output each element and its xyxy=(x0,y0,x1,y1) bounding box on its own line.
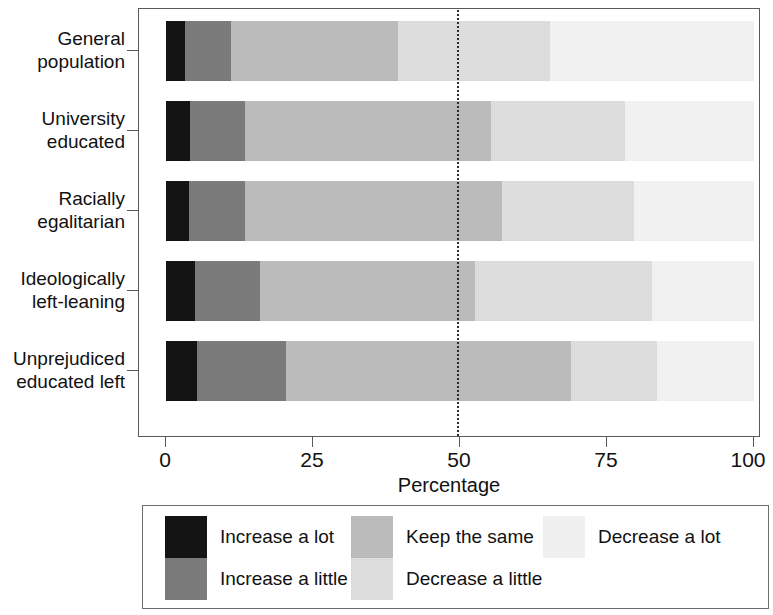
bar-segment-increase-a-little xyxy=(185,21,232,81)
y-axis-label-line2: left-leaning xyxy=(0,290,125,313)
legend-item-decrease-a-little: Decrease a little xyxy=(351,558,542,600)
legend-item-keep-the-same: Keep the same xyxy=(351,516,534,558)
bar-segment-increase-a-lot xyxy=(166,261,195,321)
y-axis-label-line1: Ideologically xyxy=(0,267,125,290)
bar-track xyxy=(166,101,754,161)
y-axis-label-racially-egalitarian: Racially egalitarian xyxy=(0,187,125,233)
bar-segment-decrease-a-lot xyxy=(652,261,754,321)
x-axis-tick-100 xyxy=(753,437,754,447)
bar-segment-decrease-a-lot xyxy=(634,181,754,241)
x-axis-tick-label-75: 75 xyxy=(571,448,641,472)
bar-segment-decrease-a-lot xyxy=(625,101,754,161)
legend-label-increase-a-little: Increase a little xyxy=(220,568,348,590)
bar-segment-increase-a-lot xyxy=(166,21,185,81)
bar-track xyxy=(166,341,754,401)
x-axis-title: Percentage xyxy=(138,474,760,497)
bar-segment-keep-the-same xyxy=(260,261,475,321)
legend-swatch-decrease-a-little xyxy=(351,558,393,600)
bar-segment-increase-a-little xyxy=(190,101,245,161)
legend-label-increase-a-lot: Increase a lot xyxy=(220,526,334,548)
y-axis-label-line2: educated left xyxy=(0,370,125,393)
legend-swatch-increase-a-little xyxy=(165,558,207,600)
x-axis-tick-50 xyxy=(459,437,460,447)
y-axis-label-ideologically-left-leaning: Ideologically left-leaning xyxy=(0,267,125,313)
legend-label-decrease-a-lot: Decrease a lot xyxy=(598,526,721,548)
bar-segment-keep-the-same xyxy=(245,101,491,161)
y-axis-label-general-population: General population xyxy=(0,27,125,73)
y-axis-label-line1: General xyxy=(0,27,125,50)
legend-item-decrease-a-lot: Decrease a lot xyxy=(543,516,721,558)
bar-segment-decrease-a-lot xyxy=(657,341,754,401)
y-axis-tick-university-educated xyxy=(127,130,138,131)
bar-row-university-educated xyxy=(139,95,759,167)
y-axis-label-line2: educated xyxy=(0,130,125,153)
y-axis-tick-general-population xyxy=(127,50,138,51)
bar-segment-increase-a-little xyxy=(197,341,286,401)
bar-row-ideologically-left-leaning xyxy=(139,255,759,327)
legend: Increase a lot Increase a little Keep th… xyxy=(142,505,769,609)
x-axis-tick-label-50: 50 xyxy=(424,448,494,472)
y-axis-label-line1: Racially xyxy=(0,187,125,210)
bar-segment-keep-the-same xyxy=(286,341,571,401)
bar-segment-increase-a-little xyxy=(195,261,260,321)
bar-segment-increase-a-lot xyxy=(166,341,197,401)
y-axis-label-line2: egalitarian xyxy=(0,210,125,233)
plot-area xyxy=(138,8,760,437)
y-axis-label-university-educated: University educated xyxy=(0,107,125,153)
legend-label-decrease-a-little: Decrease a little xyxy=(406,568,542,590)
bar-segment-decrease-a-lot xyxy=(550,21,754,81)
bar-track xyxy=(166,261,754,321)
bar-segment-decrease-a-little xyxy=(502,181,634,241)
legend-swatch-keep-the-same xyxy=(351,516,393,558)
bar-segment-keep-the-same xyxy=(231,21,398,81)
x-axis-tick-75 xyxy=(606,437,607,447)
bar-track xyxy=(166,181,754,241)
bar-row-general-population xyxy=(139,15,759,87)
y-axis-tick-racially-egalitarian xyxy=(127,210,138,211)
bar-segment-increase-a-little xyxy=(189,181,245,241)
x-axis-tick-25 xyxy=(312,437,313,447)
x-axis-tick-0 xyxy=(165,437,166,447)
legend-swatch-increase-a-lot xyxy=(165,516,207,558)
bar-segment-keep-the-same xyxy=(245,181,502,241)
bar-segment-decrease-a-little xyxy=(491,101,625,161)
bar-segment-increase-a-lot xyxy=(166,101,190,161)
bar-segment-decrease-a-little xyxy=(475,261,652,321)
x-axis-tick-label-0: 0 xyxy=(130,448,200,472)
reference-line-50-percent xyxy=(457,10,459,436)
legend-item-increase-a-lot: Increase a lot xyxy=(165,516,334,558)
legend-item-increase-a-little: Increase a little xyxy=(165,558,348,600)
bar-segment-increase-a-lot xyxy=(166,181,189,241)
x-axis-tick-label-100: 100 xyxy=(713,448,773,472)
bar-row-unprejudiced-educated-left xyxy=(139,335,759,407)
y-axis-label-line1: University xyxy=(0,107,125,130)
bar-row-racially-egalitarian xyxy=(139,175,759,247)
legend-swatch-decrease-a-lot xyxy=(543,516,585,558)
y-axis-tick-unprejudiced-educated-left xyxy=(127,370,138,371)
y-axis-tick-ideologically-left-leaning xyxy=(127,290,138,291)
legend-label-keep-the-same: Keep the same xyxy=(406,526,534,548)
x-axis-tick-label-25: 25 xyxy=(277,448,347,472)
y-axis-label-unprejudiced-educated-left: Unprejudiced educated left xyxy=(0,347,125,393)
stacked-bar-chart-figure: General population University educated R… xyxy=(0,0,773,615)
bar-track xyxy=(166,21,754,81)
y-axis-label-line2: population xyxy=(0,50,125,73)
bar-segment-decrease-a-little xyxy=(398,21,550,81)
bar-segment-decrease-a-little xyxy=(571,341,657,401)
y-axis-label-line1: Unprejudiced xyxy=(0,347,125,370)
